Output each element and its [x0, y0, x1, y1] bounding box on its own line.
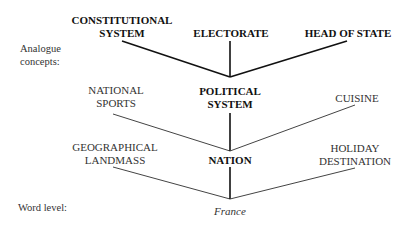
node-text: NATION — [208, 154, 251, 167]
node-text: CUISINE — [335, 92, 378, 105]
node-cuisine: CUISINE — [335, 92, 378, 105]
node-constitutional-system: CONSTITUTIONAL SYSTEM — [72, 14, 173, 40]
analogue-concepts-label: Analogue concepts: — [20, 42, 61, 68]
node-text: SPORTS — [88, 97, 144, 110]
node-national-sports: NATIONAL SPORTS — [88, 84, 144, 110]
node-text: ELECTORATE — [193, 27, 268, 40]
node-text: HEAD OF STATE — [305, 27, 392, 40]
word-level-label: Word level: — [18, 201, 67, 214]
node-text: CONSTITUTIONAL — [72, 14, 173, 27]
node-political-system: POLITICAL SYSTEM — [199, 85, 261, 111]
connector-constitutional — [122, 41, 230, 77]
node-text: NATIONAL — [88, 84, 144, 97]
word-france: France — [214, 205, 246, 218]
node-text: GEOGRAPHICAL — [72, 141, 158, 154]
connector-holiday-destination — [230, 168, 355, 199]
analogue-label-line2: concepts: — [20, 55, 61, 68]
node-electorate: ELECTORATE — [193, 27, 268, 40]
node-text: LANDMASS — [72, 154, 158, 167]
node-holiday-destination: HOLIDAY DESTINATION — [319, 142, 391, 168]
node-geographical-landmass: GEOGRAPHICAL LANDMASS — [72, 141, 158, 167]
node-text: HOLIDAY — [319, 142, 391, 155]
node-text: DESTINATION — [319, 155, 391, 168]
node-text: SYSTEM — [72, 27, 173, 40]
connector-head-of-state — [230, 41, 347, 77]
analogue-label-line1: Analogue — [20, 42, 61, 55]
node-head-of-state: HEAD OF STATE — [305, 27, 392, 40]
node-text: SYSTEM — [199, 98, 261, 111]
connector-geographical-landmass — [113, 167, 230, 199]
node-text: POLITICAL — [199, 85, 261, 98]
node-nation: NATION — [208, 154, 251, 167]
